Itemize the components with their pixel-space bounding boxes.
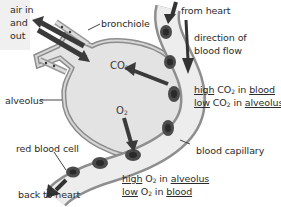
label-direction-of: direction of <box>194 32 247 43</box>
label-air-in: air in <box>10 4 33 15</box>
o2-note-line2: low O2 in blood <box>122 186 192 197</box>
co2-note-line2: low CO2 in alveolus <box>194 97 281 108</box>
gas-exchange-diagram: air in and out bronchiole from heart dir… <box>0 0 281 207</box>
label-back-to-heart: back to heart <box>18 189 80 200</box>
label-out: out <box>10 30 25 41</box>
label-from-heart: from heart <box>181 5 230 16</box>
label-red-blood-cell: red blood cell <box>16 143 79 154</box>
label-blood-capillary: blood capillary <box>196 145 264 156</box>
label-alveolus: alveolus <box>5 95 44 106</box>
co2-note-line1: high CO2 in blood <box>194 84 275 95</box>
o2-note-line1: high O2 in alveolus <box>122 173 209 184</box>
label-bronchiole: bronchiole <box>101 18 150 29</box>
label-and: and <box>10 17 28 28</box>
gas-o2-label: O2 <box>116 105 128 116</box>
gas-co2-label: CO2 <box>110 60 129 71</box>
label-blood-flow: blood flow <box>194 45 242 56</box>
